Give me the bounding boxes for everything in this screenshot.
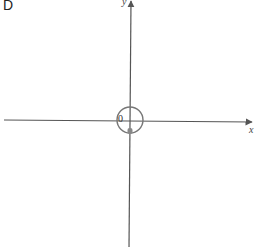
y-axis xyxy=(129,1,131,247)
origin-label: 0 xyxy=(118,113,123,124)
x-axis xyxy=(4,120,252,122)
x-axis-label: x xyxy=(249,124,253,135)
point-marker xyxy=(128,128,133,134)
coordinate-diagram xyxy=(0,0,254,252)
y-axis-label: y xyxy=(122,0,126,7)
